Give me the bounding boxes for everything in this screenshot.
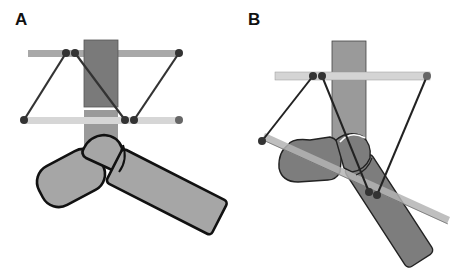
joint-dot (130, 116, 138, 124)
joint-dot (71, 49, 79, 57)
joint-dot (20, 116, 28, 124)
joint-dot (309, 72, 317, 80)
link-a-3 (134, 53, 179, 120)
link-b-1 (262, 76, 313, 141)
joint-dot (373, 191, 381, 199)
bottom-bar-a (24, 117, 180, 124)
joint-dot (62, 49, 70, 57)
joint-dot (121, 116, 129, 124)
panel-a (20, 40, 228, 236)
link-b-3 (377, 76, 427, 195)
link-a-1 (24, 53, 66, 120)
joint-dot (258, 137, 266, 145)
joint-dot (175, 49, 183, 57)
joint-dot (365, 188, 373, 196)
panel-b (258, 41, 450, 269)
top-bar-b (275, 72, 430, 80)
diagram-canvas (0, 0, 460, 269)
joint-dot-gray (175, 116, 183, 124)
bones-a (31, 135, 228, 236)
joint-dot-gray (423, 72, 431, 80)
joint-dot (318, 72, 326, 80)
